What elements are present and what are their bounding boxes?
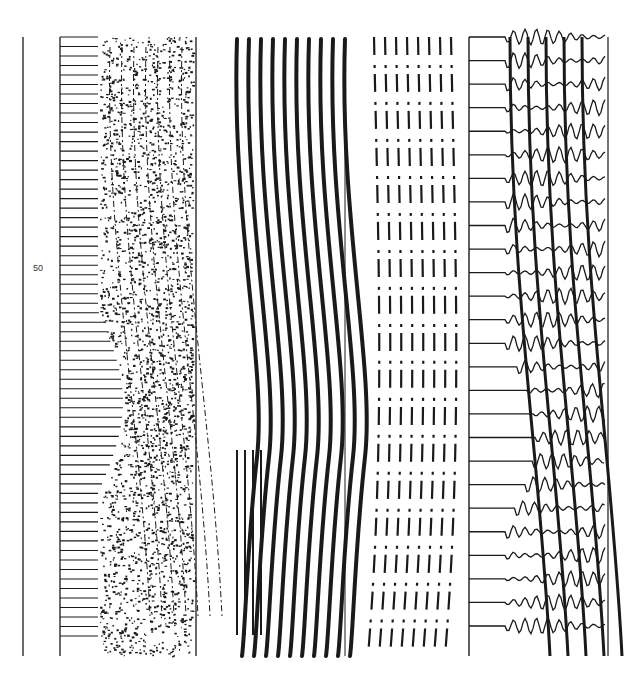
axis-label: 50 [33,263,43,273]
wave-field-figure [0,0,639,686]
panel-2-stripes [236,39,366,656]
panel-4-traces [469,29,605,633]
panel-3-dotted-stripes [368,37,456,656]
panel-1-scatter [100,37,222,657]
figure: 50 [0,0,639,686]
